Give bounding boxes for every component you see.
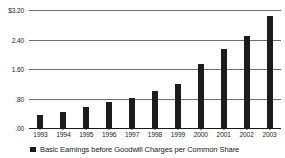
x-tick [40,128,41,130]
x-tick [155,128,156,130]
x-tick [200,128,201,130]
bar-1995[interactable] [83,107,89,128]
bar-1994[interactable] [60,112,66,128]
bar-slot [189,10,212,128]
bar-slot [75,10,98,128]
x-tick-label-2003: 2003 [255,131,285,138]
y-tick-label: .80 [15,95,24,102]
y-tick-label: 2.40 [12,36,24,43]
plot-area [29,10,281,128]
x-tick [132,128,133,130]
x-tick [177,128,178,130]
x-tick [246,128,247,130]
bar-1993[interactable] [37,115,43,128]
y-tick-label: 1.60 [12,66,24,73]
bar-slot [121,10,144,128]
bar-slot [235,10,258,128]
bar-slot [29,10,52,128]
x-tick [63,128,64,130]
bar-2002[interactable] [244,36,250,128]
y-axis: .00.801.602.40$3.20 [0,10,27,128]
bar-2000[interactable] [198,64,204,128]
x-tick [223,128,224,130]
bar-1998[interactable] [152,91,158,128]
legend-swatch-icon [30,147,36,152]
bar-slot [166,10,189,128]
bar-1996[interactable] [106,102,112,128]
bar-2003[interactable] [267,16,273,128]
x-axis: 1993199419951996199719981999200020012002… [29,128,281,142]
bar-1997[interactable] [129,98,135,128]
x-tick [109,128,110,130]
bar-1999[interactable] [175,84,181,128]
bar-slot [52,10,75,128]
x-tick [269,128,270,130]
bar-slot [144,10,167,128]
y-tick-label: $3.20 [8,7,24,14]
chart-legend: Basic Earnings before Goodwill Charges p… [30,145,239,154]
bar-slot [258,10,281,128]
bar-2001[interactable] [221,49,227,128]
bar-slot [98,10,121,128]
legend-label: Basic Earnings before Goodwill Charges p… [40,145,239,154]
x-tick [86,128,87,130]
bar-slot [212,10,235,128]
y-tick-label: .00 [15,125,24,132]
bars-layer [29,10,281,128]
bar-chart-figure: .00.801.602.40$3.20 19931994199519961997… [0,0,285,158]
